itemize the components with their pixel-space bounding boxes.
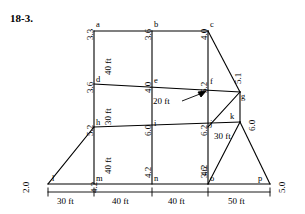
- node-label-b: b: [154, 20, 158, 29]
- load-value-l: 2.0: [22, 182, 31, 193]
- node-label-c: c: [210, 20, 214, 29]
- load-value-g: 5.1: [234, 73, 243, 84]
- load-value-k: 6.0: [248, 120, 257, 131]
- load-value-n2: 4.2: [144, 167, 153, 178]
- load-value-o: 3.6: [200, 167, 209, 178]
- load-value-e: 4.0: [144, 82, 153, 93]
- node-label-k: k: [230, 112, 234, 121]
- load-value-h: 5.2: [86, 125, 95, 136]
- load-value-i: 6.0: [144, 125, 153, 136]
- node-label-h: h: [96, 118, 100, 127]
- bottom-dim-m-n: 40 ft: [112, 197, 129, 206]
- node-label-p: p: [258, 174, 262, 183]
- node-label-l: l: [52, 174, 54, 183]
- member-d-g: [94, 84, 240, 92]
- bottom-dim-o-p: 50 ft: [228, 197, 245, 206]
- load-value-p: 5.0: [278, 182, 287, 193]
- node-label-g: g: [241, 92, 245, 101]
- load-value-d: 3.6: [86, 82, 95, 93]
- node-label-j: j: [210, 119, 212, 128]
- member-k-p: [240, 122, 270, 184]
- node-label-a: a: [96, 20, 100, 29]
- bottom-dim-n-o: 40 ft: [168, 197, 185, 206]
- interior-dim-h-m: 40 ft: [104, 157, 113, 174]
- interior-dim-j-k: 30 ft: [214, 132, 231, 141]
- node-label-i: i: [154, 119, 156, 128]
- callout-dim-20ft: 20 ft: [153, 97, 170, 106]
- bottom-dim-l-m: 30 ft: [57, 197, 74, 206]
- node-label-n: n: [154, 174, 158, 183]
- load-value-a: 3.3: [86, 29, 95, 40]
- node-label-f: f: [210, 77, 213, 86]
- figure-page: 18-3.: [0, 0, 305, 214]
- load-value-c: 4.0: [200, 29, 209, 40]
- node-label-o: o: [210, 174, 214, 183]
- load-value-j: 6.2: [200, 125, 209, 136]
- interior-dim-d-h: 30 ft: [104, 108, 113, 125]
- member-h-k: [94, 122, 240, 127]
- load-value-b: 3.6: [144, 29, 153, 40]
- node-label-e: e: [154, 76, 158, 85]
- interior-dim-a-d: 40 ft: [104, 58, 113, 75]
- load-value-f: 5.2: [200, 82, 209, 93]
- load-value-m: 4.2: [90, 182, 99, 193]
- node-label-d: d: [96, 75, 100, 84]
